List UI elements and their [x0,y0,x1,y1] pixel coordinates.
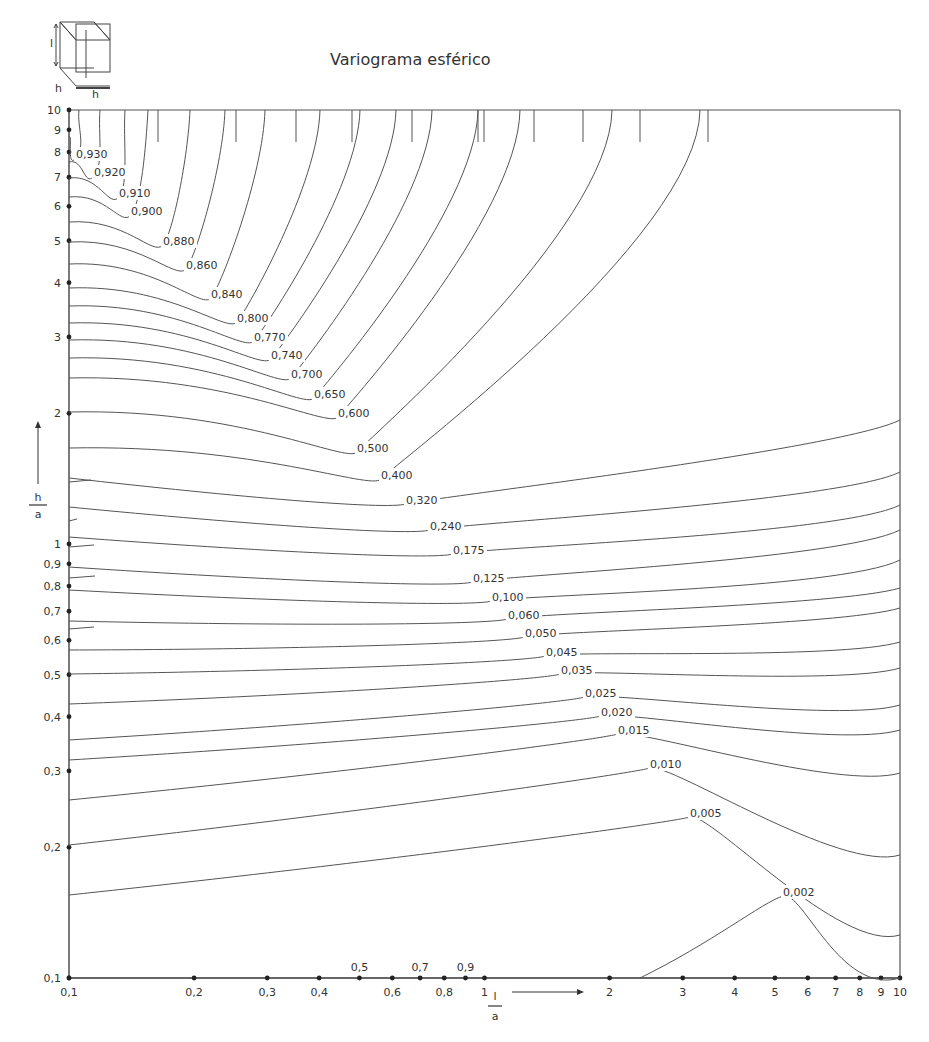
y-tick-dot [67,335,72,340]
y-tick-dot [67,175,72,180]
y-tick-label: 2 [54,407,61,420]
y-tick-label: 0,8 [44,580,62,593]
contour-label: 0,700 [291,368,323,381]
contour-line [69,768,900,857]
contour-label: 0,010 [650,758,682,771]
contour-line [69,734,900,800]
x-tick-dot [418,976,423,981]
x-tick-label: 6 [804,986,811,999]
contour-label: 0,930 [76,148,108,161]
y-tick-dot [67,561,72,566]
contour-label: 0,002 [783,886,815,899]
left-stub [69,545,94,547]
left-stub [69,519,77,521]
y-tick-label: 0,2 [44,841,62,854]
y-tick-label: 1 [54,538,61,551]
contour-line [69,642,900,674]
contour-label: 0,400 [381,469,413,482]
contour-label: 0,125 [473,572,505,585]
x-tick-label-above: 0,5 [351,961,369,974]
x-tick-label: 0,6 [384,986,402,999]
contour-label: 0,035 [561,664,593,677]
y-tick-label: 8 [54,146,61,159]
contour-line [69,110,612,454]
x-tick-dot [192,976,197,981]
y-tick-label: 0,3 [44,765,62,778]
x-tick-dot [857,976,862,981]
y-tick-label: 3 [54,331,61,344]
contour-label: 0,240 [430,520,462,533]
x-tick-dot [463,976,468,981]
contour-label: 0,500 [357,442,389,455]
x-tick-dot [390,976,395,981]
y-tick-label: 4 [54,277,61,290]
contour-label: 0,045 [546,646,578,659]
y-tick-label: 10 [47,104,61,117]
contour-label: 0,770 [254,331,286,344]
x-tick-label: 3 [679,986,686,999]
contour-label: 0,800 [237,312,269,325]
y-tick-label: 0,9 [44,558,62,571]
y-tick-dot [67,280,72,285]
contour-label: 0,020 [601,706,633,719]
left-stub [69,627,94,629]
y-tick-dot [67,769,72,774]
x-tick-dot [680,976,685,981]
y-tick-label: 0,4 [44,711,62,724]
contour-label: 0,175 [453,544,485,557]
x-tick-dot [442,976,447,981]
y-tick-dot [67,542,72,547]
x-tick-dot [317,976,322,981]
variogram-contour-chart: l h h 0,10,20,30,40,60,8123456789100,50,… [0,0,929,1042]
x-tick-label: 0,1 [60,986,78,999]
contour-line [69,608,900,650]
x-tick-label: 4 [731,986,738,999]
x-tick-label: 7 [832,986,839,999]
contour-label: 0,015 [618,724,650,737]
y-tick-label: 0,1 [44,972,62,985]
x-tick-dot [805,976,810,981]
x-tick-label: 5 [771,986,778,999]
y-tick-dot [67,584,72,589]
y-tick-dot [67,672,72,677]
contour-line [69,110,432,380]
y-tick-dot [67,108,72,113]
x-tick-dot [357,976,362,981]
left-stub [69,576,95,578]
contour-label: 0,650 [314,388,346,401]
inset-label-h-depth: h [55,82,62,95]
x-tick-label: 8 [856,986,863,999]
y-tick-dot [67,845,72,850]
inset-label-h-width: h [92,88,99,101]
contour-line [69,110,396,361]
y-tick-label: 9 [54,124,61,137]
x-tick-dot [265,976,270,981]
y-tick-label: 5 [54,235,61,248]
y-tick-label: 6 [54,200,61,213]
contour-label: 0,100 [492,591,524,604]
x-tick-label: 1 [481,986,488,999]
contour-line [69,588,900,624]
y-tick-dot [67,204,72,209]
contour-line [69,472,900,532]
contour-label: 0,025 [585,687,617,700]
y-tick-dot [67,127,72,132]
x-tick-label: 0,4 [310,986,328,999]
x-tick-dot [773,976,778,981]
contour-label: 0,060 [508,609,540,622]
contour-label: 0,920 [94,166,126,179]
contour-line [69,420,900,505]
y-axis-label-den: a [35,508,42,521]
left-stub [69,480,91,482]
contour-label: 0,320 [406,494,438,507]
contour-label: 0,005 [690,807,722,820]
contour-label: 0,600 [338,407,370,420]
inset-label-l: l [50,37,53,50]
contour-label: 0,860 [186,259,218,272]
contour-label: 0,050 [525,627,557,640]
contour-label: 0,740 [271,349,303,362]
y-tick-dot [67,609,72,614]
x-tick-label-above: 0,7 [411,961,429,974]
y-tick-dot [67,714,72,719]
cube-inset-icon [54,22,110,88]
